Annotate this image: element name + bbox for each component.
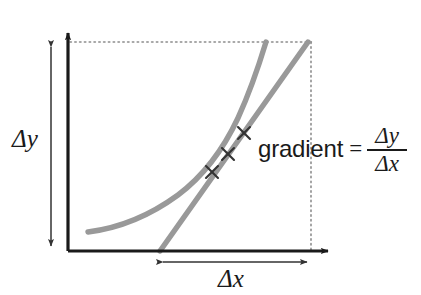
delta-x-label: Δx	[218, 266, 244, 291]
fraction-numerator: Δy	[373, 124, 401, 149]
gradient-annotation: gradient = Δy Δx	[258, 123, 407, 175]
equals-sign: =	[349, 136, 362, 162]
fraction-denominator: Δx	[373, 151, 401, 176]
gradient-tangent-diagram: Δy Δx gradient = Δy Δx	[0, 0, 421, 295]
delta-y-label: Δy	[12, 126, 38, 151]
gradient-word-label: gradient	[258, 135, 343, 163]
gradient-fraction: Δy Δx	[367, 124, 407, 176]
